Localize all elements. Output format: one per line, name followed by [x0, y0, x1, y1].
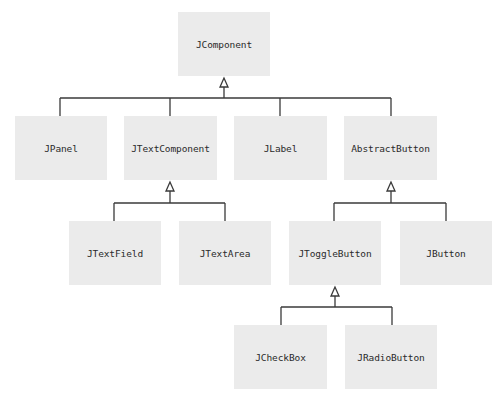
class-node-abstractbutton: AbstractButton — [344, 116, 437, 180]
class-label: JRadioButton — [357, 352, 424, 363]
class-label: JLabel — [264, 143, 298, 154]
edge-group-abstractbutton — [334, 182, 446, 221]
class-label: JTextArea — [200, 248, 251, 259]
inheritance-arrow-icon — [166, 182, 174, 191]
class-node-jradiobutton: JRadioButton — [345, 325, 437, 389]
edge-group-jtextcomponent — [114, 182, 225, 221]
class-node-jtextarea: JTextArea — [179, 221, 271, 285]
class-node-jcomponent: JComponent — [178, 12, 270, 76]
class-node-jcheckbox: JCheckBox — [234, 325, 327, 389]
class-node-jlabel: JLabel — [234, 116, 327, 180]
edge-group-jtogglebutton — [281, 287, 392, 325]
inheritance-arrow-icon — [387, 182, 395, 191]
class-node-jpanel: JPanel — [15, 116, 107, 180]
inheritance-arrow-icon — [220, 78, 228, 87]
class-node-jtextcomponent: JTextComponent — [124, 116, 217, 180]
class-node-jbutton: JButton — [400, 221, 492, 285]
class-label: JTextComponent — [131, 143, 210, 154]
class-node-jtogglebutton: JToggleButton — [289, 221, 381, 285]
class-label: JCheckBox — [255, 352, 306, 363]
class-label: JButton — [426, 248, 465, 259]
inheritance-arrow-icon — [331, 287, 339, 296]
class-label: JComponent — [196, 39, 252, 50]
class-label: JTextField — [87, 248, 143, 259]
class-label: JPanel — [44, 143, 78, 154]
class-hierarchy-diagram: JComponentJPanelJTextComponentJLabelAbst… — [0, 0, 504, 403]
class-node-jtextfield: JTextField — [69, 221, 161, 285]
edge-group-jcomponent — [60, 78, 391, 116]
class-label: JToggleButton — [298, 248, 371, 259]
class-label: AbstractButton — [351, 143, 430, 154]
